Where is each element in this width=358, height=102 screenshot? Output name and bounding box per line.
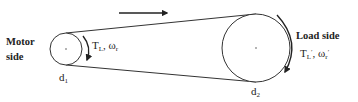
motor-diameter-label: d1 [59,72,68,85]
belt-bottom-line [66,65,256,82]
load-side-label: Load side [296,31,339,42]
diameter-subscript: 1 [65,77,69,85]
speed-subscript: r [116,45,118,53]
motor-rotation-arrow-icon [83,36,89,60]
speed-prime: ′ [328,48,330,56]
torque-symbol: T [300,47,307,59]
belt-drive-diagram: Motor side TL, ωr d1 Load side TL′, ωr′ … [0,0,358,102]
load-pulley-center [255,47,257,49]
motor-side-label-line1: Motor [6,37,35,48]
load-diameter-label: d2 [251,86,260,99]
motor-pulley-center [65,48,67,50]
motor-side-label-line2: side [6,52,24,63]
speed-symbol: ω [109,39,116,51]
torque-symbol: T [92,39,99,51]
load-torque-speed-label: TL′, ωr′ [300,48,329,61]
motor-torque-speed-label: TL, ωr [92,40,118,53]
diameter-subscript: 2 [257,91,261,99]
